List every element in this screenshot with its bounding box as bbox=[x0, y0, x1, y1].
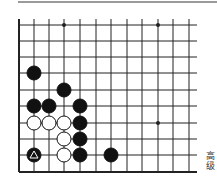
white-stone[interactable] bbox=[57, 116, 71, 130]
star-point bbox=[156, 121, 160, 125]
black-stone[interactable] bbox=[73, 148, 87, 162]
black-stone[interactable] bbox=[27, 99, 41, 113]
star-point bbox=[156, 23, 160, 27]
black-stone[interactable] bbox=[73, 116, 87, 130]
black-stone[interactable] bbox=[73, 99, 87, 113]
black-stone[interactable] bbox=[27, 66, 41, 80]
white-stone[interactable] bbox=[27, 116, 41, 130]
go-board[interactable] bbox=[0, 0, 217, 187]
star-point bbox=[62, 23, 66, 27]
white-stone[interactable] bbox=[42, 116, 56, 130]
white-stone[interactable] bbox=[57, 148, 71, 162]
black-stone[interactable] bbox=[42, 99, 56, 113]
black-stone[interactable] bbox=[57, 83, 71, 97]
white-stone[interactable] bbox=[57, 132, 71, 146]
black-stone[interactable] bbox=[104, 148, 118, 162]
black-stone[interactable] bbox=[73, 132, 87, 146]
level-caption: 高级 bbox=[206, 151, 217, 171]
